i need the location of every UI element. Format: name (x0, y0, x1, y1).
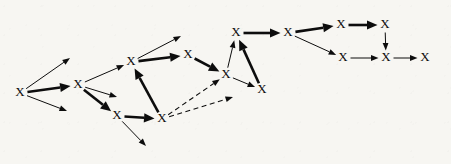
arrowhead-icon (270, 28, 281, 37)
edge-n1-to-n2 (27, 87, 60, 92)
graph-node-n3: X (126, 53, 136, 68)
edge-n10-to-n12 (295, 36, 330, 52)
graph-node-n2: X (73, 76, 83, 91)
arrowhead-icon (116, 65, 124, 71)
edge-n5-to-n7 (168, 84, 213, 115)
arrowhead-icon (173, 36, 181, 42)
edge-n1-to-d1 (26, 62, 64, 88)
edge-n10-to-n11 (295, 28, 323, 32)
graph-node-n10: X (283, 24, 293, 39)
graph-node-n12: X (338, 49, 348, 64)
arrowhead-icon (62, 58, 70, 65)
graph-node-n7: X (221, 66, 231, 81)
arrowhead-icon (371, 55, 379, 61)
edge-n1-to-d2 (27, 96, 60, 109)
graph-node-n15: X (420, 49, 430, 64)
arrowhead-icon (59, 106, 67, 111)
edge-n3-to-n6 (138, 57, 170, 61)
graph-node-n1: X (15, 84, 25, 99)
edge-n2-to-n3 (85, 68, 117, 82)
edge-n4-to-n5 (124, 117, 144, 118)
edge-n5-to-n3 (140, 78, 159, 113)
edge-n7-to-n9 (233, 78, 248, 84)
graph-node-n8: X (231, 24, 241, 39)
edge-n3-to-d4 (138, 39, 175, 58)
edge-n4-to-d5 (122, 121, 141, 140)
arrowhead-icon (60, 83, 71, 92)
graph-node-n13: X (380, 16, 390, 31)
arrowhead-icon (144, 113, 155, 122)
arrowhead-icon (230, 40, 236, 48)
edge-n9-to-n8 (243, 49, 258, 83)
arrowhead-icon (323, 23, 334, 32)
arrowhead-icon (410, 55, 418, 61)
graph-svg: XXXXXXXXXXXXXXX (0, 0, 451, 164)
arrowhead-icon (247, 82, 255, 88)
arrowhead-icon (170, 53, 181, 62)
arrowhead-icon (225, 96, 233, 102)
graph-node-n5: X (157, 110, 167, 125)
graph-node-n4: X (112, 107, 122, 122)
arrowhead-icon (212, 79, 220, 86)
graph-node-n14: X (381, 49, 391, 64)
arrowhead-icon (109, 92, 117, 98)
edge-n7-to-n8 (228, 48, 233, 68)
graph-node-n6: X (183, 46, 193, 61)
arrowhead-icon (367, 20, 378, 29)
edge-layer (26, 20, 417, 146)
edge-n6-to-n7 (195, 58, 210, 66)
node-layer: XXXXXXXXXXXXXXX (15, 16, 430, 125)
diagram-canvas: XXXXXXXXXXXXXXX (0, 0, 451, 164)
graph-node-n9: X (257, 81, 267, 96)
arrowhead-icon (328, 49, 336, 55)
graph-node-n11: X (336, 16, 346, 31)
